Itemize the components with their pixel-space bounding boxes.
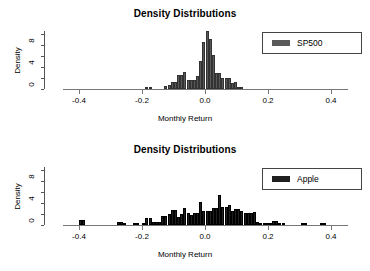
y-axis-tick — [41, 56, 44, 57]
legend-label: SP500 — [297, 38, 323, 48]
y-axis-tick — [41, 78, 44, 79]
x-axis-tick — [79, 90, 80, 94]
legend-sp500[interactable]: SP500 — [262, 32, 362, 54]
y-axis-label-text: Density — [13, 47, 22, 74]
y-axis-tick — [41, 45, 44, 46]
x-axis-tick — [142, 226, 143, 230]
y-axis-line — [44, 167, 45, 225]
x-tick-label: 0.4 — [316, 232, 346, 241]
y-axis-tick — [41, 170, 44, 171]
x-tick-label: 0.4 — [316, 96, 346, 105]
y-tick-label-0: 0 — [24, 216, 38, 225]
y-axis-tick — [41, 89, 44, 90]
y-axis-label: Density — [10, 30, 24, 90]
x-tick-label: -0.2 — [127, 96, 157, 105]
x-axis-label: Monthly Return — [0, 250, 370, 259]
y-tick-label-8: 8 — [24, 172, 38, 181]
x-axis-tick — [268, 226, 269, 230]
y-axis-tick — [41, 225, 44, 226]
x-axis-tick — [142, 90, 143, 94]
chart-title: Density Distributions — [0, 8, 370, 19]
x-axis-label: Monthly Return — [0, 114, 370, 123]
x-tick-label: 0.0 — [190, 232, 220, 241]
y-axis-line — [44, 31, 45, 89]
x-tick-label: -0.4 — [64, 96, 94, 105]
y-tick-label-0: 0 — [24, 80, 38, 89]
y-axis-label: Density — [10, 166, 24, 226]
chart-panel-sp500: Density Distributions Density 0 4 8 -0.4… — [0, 0, 370, 135]
chart-panel-apple: Density Distributions Density 0 4 8 -0.4… — [0, 136, 370, 271]
legend-apple[interactable]: Apple — [262, 168, 362, 190]
x-tick-label: 0.2 — [253, 96, 283, 105]
density-distributions-figure: Density Distributions Density 0 4 8 -0.4… — [0, 0, 370, 271]
y-axis-tick — [41, 192, 44, 193]
y-tick-label-4: 4 — [24, 194, 38, 203]
y-axis-tick — [41, 203, 44, 204]
x-axis-tick — [205, 90, 206, 94]
legend-swatch-icon — [272, 176, 290, 182]
x-tick-label: -0.2 — [127, 232, 157, 241]
legend-swatch-icon — [272, 40, 290, 46]
x-axis-tick — [205, 226, 206, 230]
x-axis-tick — [79, 226, 80, 230]
x-axis-tick — [331, 226, 332, 230]
chart-title: Density Distributions — [0, 144, 370, 155]
x-axis-tick — [331, 90, 332, 94]
y-axis-tick — [41, 181, 44, 182]
y-axis-tick — [41, 67, 44, 68]
x-tick-label: -0.4 — [64, 232, 94, 241]
legend-label: Apple — [297, 174, 319, 184]
x-tick-label: 0.2 — [253, 232, 283, 241]
y-tick-label-4: 4 — [24, 58, 38, 67]
x-tick-label: 0.0 — [190, 96, 220, 105]
y-axis-tick — [41, 214, 44, 215]
y-axis-label-text: Density — [13, 183, 22, 210]
x-axis-tick — [268, 90, 269, 94]
y-axis-tick — [41, 34, 44, 35]
y-tick-label-8: 8 — [24, 36, 38, 45]
